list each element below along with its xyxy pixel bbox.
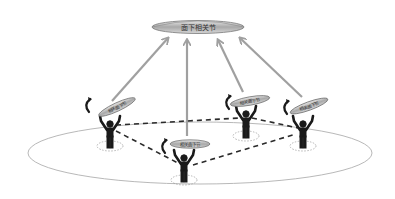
top-node: 面下相关节 <box>152 21 244 34</box>
top-node-label: 面下相关节 <box>181 23 216 32</box>
upward-arrows <box>112 38 302 136</box>
ground-plane <box>28 122 372 184</box>
person-icon <box>236 106 256 138</box>
agent-disc: 相关面下节 <box>289 95 329 117</box>
link-agent-1-agent-2 <box>116 131 178 163</box>
agent-3: 相关面下节 <box>226 93 270 141</box>
agent-disc-label: 相关面下节 <box>180 141 201 148</box>
person-icon <box>293 116 313 148</box>
link-agent-1-agent-3 <box>116 118 240 125</box>
link-agent-3-agent-4 <box>252 118 298 128</box>
arrow-agent-1 <box>112 38 168 101</box>
arrow-agent-3 <box>218 40 243 92</box>
person-icon <box>174 150 194 182</box>
link-agent-2-agent-4 <box>193 134 296 165</box>
agent-1: 相关面下节 <box>86 95 137 151</box>
agent-disc: 相关面下节 <box>230 93 271 108</box>
agent-4: 相关面下节 <box>284 95 329 151</box>
arrow-agent-4 <box>240 38 302 97</box>
agent-disc: 相关面下节 <box>170 140 210 148</box>
agent-disc: 相关面下节 <box>97 95 137 120</box>
swarm-diagram: 面下相关节 相关面下节相关面下节相关面下节相关面下节 <box>0 0 395 199</box>
